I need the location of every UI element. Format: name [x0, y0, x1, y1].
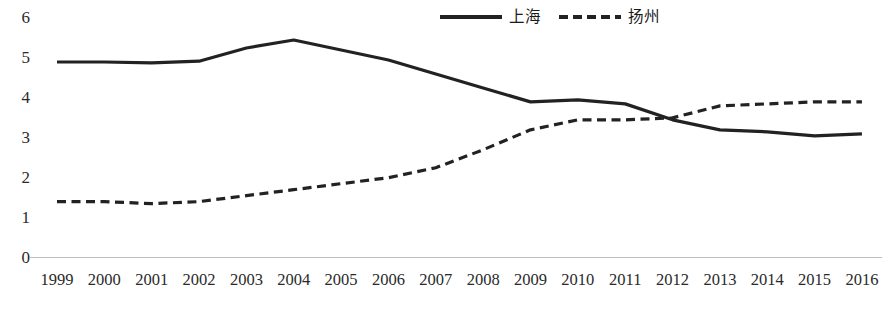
x-tick-label-2015: 2015: [798, 272, 831, 289]
x-tick-label-2002: 2002: [183, 272, 216, 289]
x-tick-label-2001: 2001: [135, 272, 168, 289]
x-tick-label-2014: 2014: [751, 272, 784, 289]
x-tick-label-2010: 2010: [561, 272, 594, 289]
x-tick-label-2011: 2011: [609, 272, 641, 289]
x-tick-label-2006: 2006: [372, 272, 405, 289]
x-tick-label-2005: 2005: [325, 272, 358, 289]
series-line-shanghai: [57, 40, 862, 136]
x-tick-label-2007: 2007: [419, 272, 452, 289]
x-tick-label-2000: 2000: [88, 272, 121, 289]
x-tick-label-2013: 2013: [703, 272, 736, 289]
series-line-yangzhou: [57, 102, 862, 204]
x-tick-label-2008: 2008: [467, 272, 500, 289]
x-tick-label-2012: 2012: [656, 272, 689, 289]
x-tick-label-1999: 1999: [41, 272, 74, 289]
plot-area: [0, 0, 889, 309]
x-axis-tick-labels: 1999200020012002200320042005200620072008…: [0, 272, 889, 300]
x-tick-label-2003: 2003: [230, 272, 263, 289]
x-tick-label-2004: 2004: [277, 272, 310, 289]
line-chart: 上海 扬州 0123456 19992000200120022003200420…: [0, 0, 889, 309]
x-tick-label-2016: 2016: [845, 272, 878, 289]
x-tick-label-2009: 2009: [514, 272, 547, 289]
